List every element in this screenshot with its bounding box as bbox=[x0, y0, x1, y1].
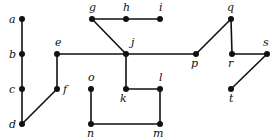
node-label-c: c bbox=[9, 83, 15, 96]
node-e bbox=[54, 51, 60, 57]
node-i bbox=[157, 16, 163, 22]
node-b bbox=[19, 51, 25, 57]
node-l bbox=[157, 86, 163, 92]
node-label-h: h bbox=[123, 1, 130, 14]
node-j bbox=[123, 51, 129, 57]
edges-group bbox=[22, 19, 267, 124]
node-label-f: f bbox=[62, 83, 69, 96]
node-a bbox=[19, 16, 25, 22]
node-label-s: s bbox=[263, 36, 269, 49]
node-label-t: t bbox=[229, 92, 234, 105]
node-f bbox=[54, 86, 60, 92]
node-label-o: o bbox=[88, 71, 95, 84]
graph-diagram: abcdefghijklmnopqrst bbox=[0, 0, 272, 139]
edge-s-t bbox=[231, 54, 267, 89]
node-label-i: i bbox=[159, 1, 163, 14]
node-label-g: g bbox=[89, 1, 96, 14]
node-label-n: n bbox=[87, 127, 94, 139]
edge-p-q bbox=[196, 19, 231, 54]
node-label-j: j bbox=[128, 36, 135, 49]
node-label-q: q bbox=[227, 1, 234, 14]
node-label-l: l bbox=[159, 71, 163, 84]
node-label-p: p bbox=[191, 57, 198, 70]
edge-g-j bbox=[92, 19, 126, 54]
edge-d-f bbox=[22, 89, 57, 124]
node-g bbox=[89, 16, 95, 22]
node-label-k: k bbox=[120, 92, 127, 105]
node-o bbox=[88, 86, 94, 92]
node-label-e: e bbox=[55, 36, 62, 49]
node-label-a: a bbox=[9, 13, 16, 26]
node-label-b: b bbox=[9, 48, 16, 61]
node-c bbox=[19, 86, 25, 92]
edge-q-r bbox=[231, 19, 232, 54]
node-q bbox=[228, 16, 234, 22]
node-label-d: d bbox=[9, 118, 16, 131]
node-label-r: r bbox=[228, 57, 234, 70]
node-s bbox=[264, 51, 270, 57]
node-h bbox=[123, 16, 129, 22]
node-d bbox=[19, 121, 25, 127]
node-label-m: m bbox=[153, 127, 163, 139]
